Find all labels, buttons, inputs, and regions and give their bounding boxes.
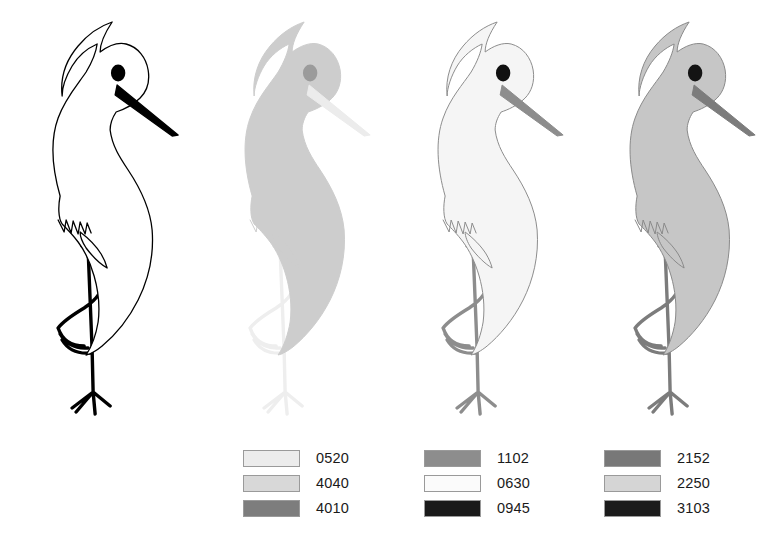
bird-body-4 [630, 22, 729, 355]
bird-svg-1 [0, 0, 192, 436]
color-swatch [424, 450, 481, 467]
bird-eye-2 [303, 65, 317, 82]
color-code-label: 2152 [677, 451, 710, 466]
color-swatch [243, 450, 300, 467]
color-code-label: 4010 [316, 501, 349, 516]
legend-item: 0630 [424, 471, 530, 495]
legend-item: 4010 [243, 496, 349, 520]
color-swatch [604, 450, 661, 467]
color-swatch [604, 475, 661, 492]
bird-figure-3 [385, 0, 577, 436]
bird-beak-1 [115, 85, 178, 136]
figure-canvas: 0520 4040 4010 1102 0630 0945 [0, 0, 769, 541]
color-code-label: 3103 [677, 501, 710, 516]
bird-beak-2 [307, 85, 370, 136]
bird-body-1 [53, 22, 152, 355]
bird-eye-3 [495, 65, 509, 82]
color-swatch [424, 475, 481, 492]
color-swatch [243, 475, 300, 492]
color-code-label: 2250 [677, 476, 710, 491]
bird-body-3 [438, 22, 537, 355]
bird-svg-2 [192, 0, 384, 436]
color-swatch [424, 500, 481, 517]
bird-eye-4 [688, 65, 702, 82]
legend-item: 2250 [604, 471, 710, 495]
color-swatch [243, 500, 300, 517]
legend-item: 3103 [604, 496, 710, 520]
color-code-label: 0945 [497, 501, 530, 516]
bird-body-2 [245, 22, 344, 355]
bird-eye-1 [111, 65, 125, 82]
legend-1: 0520 4040 4010 [243, 446, 349, 521]
color-code-label: 4040 [316, 476, 349, 491]
legend-item: 1102 [424, 446, 530, 470]
legend-row: 0520 4040 4010 1102 0630 0945 [0, 436, 769, 541]
bird-beak-4 [692, 85, 755, 136]
bird-figure-2 [192, 0, 384, 436]
bird-figure-4 [577, 0, 769, 436]
color-code-label: 0520 [316, 451, 349, 466]
color-swatch [604, 500, 661, 517]
bird-svg-3 [385, 0, 577, 436]
legend-item: 4040 [243, 471, 349, 495]
legend-item: 2152 [604, 446, 710, 470]
legend-2: 1102 0630 0945 [424, 446, 530, 521]
legend-item: 0945 [424, 496, 530, 520]
legend-item: 0520 [243, 446, 349, 470]
bird-illustration-row [0, 0, 769, 436]
color-code-label: 0630 [497, 476, 530, 491]
legend-3: 2152 2250 3103 [604, 446, 710, 521]
color-code-label: 1102 [497, 451, 529, 466]
bird-beak-3 [500, 85, 563, 136]
bird-figure-1 [0, 0, 192, 436]
bird-svg-4 [577, 0, 769, 436]
